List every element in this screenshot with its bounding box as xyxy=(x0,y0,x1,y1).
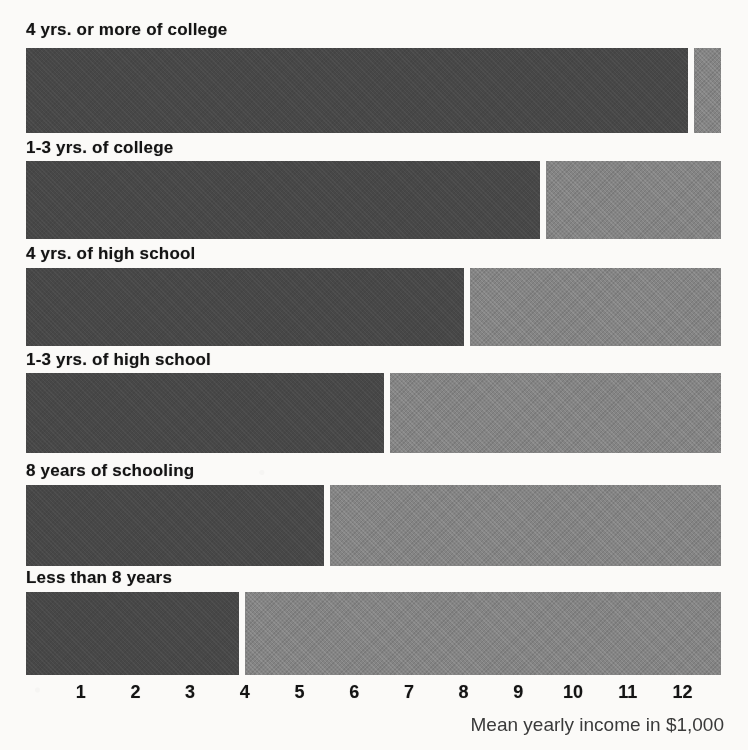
stacked-bar-chart: 4 yrs. or more of college 1-3 yrs. of co… xyxy=(0,0,748,750)
bar-track-1 xyxy=(26,161,724,239)
bar-segment-light-5 xyxy=(245,592,720,675)
bar-segment-dark-5 xyxy=(26,592,239,675)
bar-row-5 xyxy=(0,592,748,675)
bar-label-4: 8 years of schooling xyxy=(26,461,194,481)
bar-row-3 xyxy=(0,373,748,453)
bar-segment-light-0 xyxy=(694,48,721,133)
bar-label-5: Less than 8 years xyxy=(26,568,172,588)
bar-segment-light-1 xyxy=(546,161,721,239)
x-tick-6: 6 xyxy=(349,682,359,703)
bar-track-0 xyxy=(26,48,724,133)
bar-label-2: 4 yrs. of high school xyxy=(26,244,196,264)
bar-row-1 xyxy=(0,161,748,239)
bar-label-3: 1-3 yrs. of high school xyxy=(26,350,211,370)
bar-track-3 xyxy=(26,373,724,453)
x-tick-7: 7 xyxy=(404,682,414,703)
bar-segment-dark-2 xyxy=(26,268,464,346)
bar-segment-dark-4 xyxy=(26,485,324,566)
x-tick-4: 4 xyxy=(240,682,250,703)
x-tick-12: 12 xyxy=(672,682,692,703)
bar-segment-light-4 xyxy=(330,485,721,566)
x-axis-ticks: 123456789101112 xyxy=(0,682,748,712)
bar-row-0 xyxy=(0,48,748,133)
x-tick-3: 3 xyxy=(185,682,195,703)
bar-label-0: 4 yrs. or more of college xyxy=(26,20,228,40)
bar-track-4 xyxy=(26,485,724,566)
bar-track-2 xyxy=(26,268,724,346)
x-tick-2: 2 xyxy=(130,682,140,703)
x-tick-11: 11 xyxy=(618,682,637,703)
bar-segment-light-2 xyxy=(470,268,721,346)
bar-row-4 xyxy=(0,485,748,566)
x-tick-8: 8 xyxy=(459,682,469,703)
x-tick-1: 1 xyxy=(76,682,86,703)
x-axis-caption: Mean yearly income in $1,000 xyxy=(471,714,724,736)
bar-segment-light-3 xyxy=(390,373,720,453)
bar-track-5 xyxy=(26,592,724,675)
x-tick-9: 9 xyxy=(513,682,523,703)
bar-label-1: 1-3 yrs. of college xyxy=(26,138,173,158)
x-tick-5: 5 xyxy=(294,682,304,703)
x-tick-10: 10 xyxy=(563,682,583,703)
bar-segment-dark-0 xyxy=(26,48,688,133)
bar-segment-dark-1 xyxy=(26,161,540,239)
bar-row-2 xyxy=(0,268,748,346)
bar-segment-dark-3 xyxy=(26,373,384,453)
